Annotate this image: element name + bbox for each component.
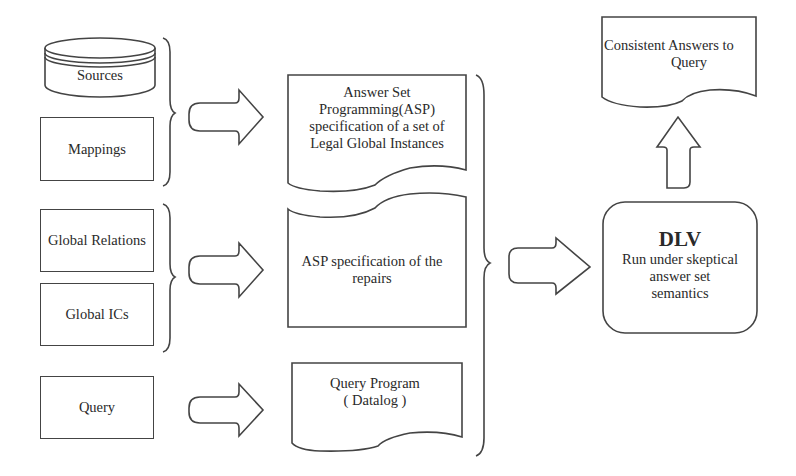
- sources-text: Sources: [77, 67, 123, 84]
- doc-line: specification of a set of: [309, 118, 444, 135]
- query-program-label: Query Program ( Datalog ): [300, 372, 450, 412]
- doc-line: Query Program: [330, 375, 420, 392]
- dlv-title: DLV: [659, 227, 701, 251]
- brace-icon: [163, 204, 175, 352]
- arrow-up-icon: [657, 117, 700, 188]
- dlv-desc-line: semantics: [651, 285, 708, 302]
- output-line: Consistent Answers to: [604, 37, 734, 54]
- mappings-label: Mappings: [40, 117, 154, 181]
- arrow-right-icon: [509, 238, 590, 294]
- mappings-text: Mappings: [68, 141, 126, 158]
- query-label: Query: [40, 376, 154, 439]
- dlv-label: DLV Run under skeptical answer set seman…: [603, 216, 757, 312]
- arrow-right-icon: [189, 90, 263, 144]
- brace-icon: [163, 38, 175, 186]
- dlv-desc-line: answer set: [650, 268, 711, 285]
- doc-line: ( Datalog ): [344, 392, 407, 409]
- output-line: Query: [651, 54, 707, 71]
- dlv-desc-line: Run under skeptical: [622, 251, 738, 268]
- doc-line: Legal Global Instances: [310, 135, 444, 152]
- global-relations-label: Global Relations: [40, 209, 154, 272]
- doc-line: repairs: [352, 270, 391, 287]
- brace-icon: [476, 75, 490, 456]
- doc-line: ASP specification of the: [302, 253, 443, 270]
- doc-line: Programming(ASP): [319, 101, 435, 118]
- asp-legal-instances-label: Answer Set Programming(ASP) specificatio…: [292, 80, 462, 156]
- global-ics-text: Global ICs: [65, 306, 128, 323]
- arrow-right-icon: [189, 384, 263, 436]
- global-ics-label: Global ICs: [40, 283, 154, 346]
- consistent-answers-label: Consistent Answers to Query: [604, 34, 754, 74]
- query-text: Query: [79, 399, 115, 416]
- doc-line: Answer Set: [343, 84, 410, 101]
- arrow-right-icon: [189, 243, 263, 297]
- sources-label: Sources: [45, 60, 155, 90]
- global-relations-text: Global Relations: [48, 232, 146, 249]
- asp-repairs-label: ASP specification of the repairs: [292, 250, 452, 290]
